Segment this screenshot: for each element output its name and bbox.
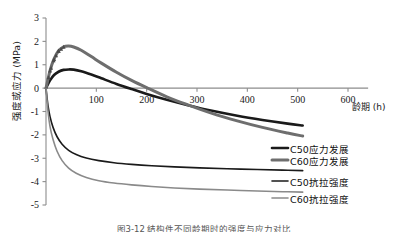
y-tick-label: -2 xyxy=(31,129,39,140)
y-tick-label: -5 xyxy=(31,199,39,210)
y-tick-label: -3 xyxy=(31,153,39,164)
legend-label-1: C60应力发展 xyxy=(290,154,349,168)
y-tick-label: -1 xyxy=(31,106,39,117)
y-tick-label: 0 xyxy=(34,83,39,94)
x-axis-label: 龄期 (h) xyxy=(352,100,386,113)
x-tick-label: 100 xyxy=(89,94,104,105)
x-tick-label: 300 xyxy=(190,94,205,105)
legend-label-3: C60抗拉强度 xyxy=(290,192,349,206)
y-tick-label: 2 xyxy=(34,36,39,47)
series-line-3 xyxy=(46,88,303,192)
x-tick-label: 500 xyxy=(290,94,305,105)
y-tick-label: 1 xyxy=(34,59,39,70)
figure-container: 3210-1-2-3-4-5100200300400500600 强度或应力 (… xyxy=(0,0,408,232)
legend-label-2: C50抗拉强度 xyxy=(290,175,349,189)
series-line-1 xyxy=(46,46,303,136)
y-tick-label: 3 xyxy=(34,12,39,23)
y-tick-label: -4 xyxy=(31,176,39,187)
y-axis-label: 强度或应力 (MPa) xyxy=(9,21,23,141)
figure-caption: 图3-12 结构件不同龄期时的强度与应力对比 xyxy=(0,222,408,232)
x-tick-label: 400 xyxy=(240,94,255,105)
series-line-0 xyxy=(46,69,303,125)
